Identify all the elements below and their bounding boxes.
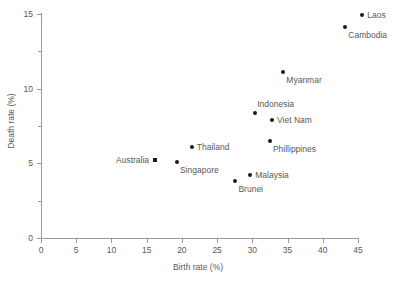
data-point-label: Viet Nam: [277, 115, 312, 125]
y-tick-label: 15: [11, 9, 33, 19]
x-tick-label: 20: [170, 245, 194, 255]
x-tick: [288, 239, 289, 243]
data-point: [233, 179, 237, 183]
data-point-label: Myanmar: [286, 75, 321, 85]
x-tick-label: 40: [311, 245, 335, 255]
x-tick: [358, 239, 359, 243]
plot-area: 051015 051015202530354045 LaosCambodiaMy…: [0, 0, 396, 281]
x-tick-label: 35: [276, 245, 300, 255]
y-axis-line: [41, 13, 42, 239]
data-point-label: Cambodia: [348, 30, 387, 40]
data-point-label: Laos: [367, 10, 385, 20]
data-point: [153, 158, 157, 162]
x-tick: [182, 239, 183, 243]
x-tick-label: 30: [240, 245, 264, 255]
x-tick: [252, 239, 253, 243]
x-tick-label: 10: [99, 245, 123, 255]
x-tick-label: 0: [29, 245, 53, 255]
y-tick-minor: [38, 126, 41, 127]
data-point-label: Thailand: [197, 142, 230, 152]
scatter-chart: 051015 051015202530354045 LaosCambodiaMy…: [0, 0, 396, 281]
y-tick-minor: [38, 51, 41, 52]
y-axis-title: Death rate (%): [6, 71, 16, 171]
x-tick-label: 25: [205, 245, 229, 255]
x-tick: [323, 239, 324, 243]
data-point-label: Phillippines: [273, 144, 316, 154]
x-tick: [111, 239, 112, 243]
y-tick-minor: [38, 201, 41, 202]
data-point: [281, 70, 285, 74]
data-point-label: Indonesia: [257, 99, 294, 109]
x-axis-title: Birth rate (%): [0, 262, 396, 272]
x-tick: [41, 239, 42, 243]
data-point: [360, 13, 364, 17]
data-point-label: Singapore: [180, 165, 219, 175]
y-tick: [37, 89, 41, 90]
y-tick: [37, 163, 41, 164]
data-point: [253, 111, 257, 115]
data-point-label: Brunei: [238, 184, 263, 194]
x-tick: [147, 239, 148, 243]
x-axis-line: [41, 238, 359, 239]
data-point: [190, 145, 194, 149]
data-point: [268, 139, 272, 143]
data-point-label: Australia: [45, 155, 149, 165]
x-tick: [217, 239, 218, 243]
y-tick-label: 0: [11, 233, 33, 243]
y-tick: [37, 14, 41, 15]
x-tick-label: 45: [346, 245, 370, 255]
data-point: [270, 118, 274, 122]
data-point: [175, 160, 179, 164]
x-tick-label: 5: [64, 245, 88, 255]
data-point-label: Malaysia: [255, 170, 289, 180]
x-tick-label: 15: [135, 245, 159, 255]
x-tick: [76, 239, 77, 243]
data-point: [248, 173, 252, 177]
data-point: [343, 25, 347, 29]
